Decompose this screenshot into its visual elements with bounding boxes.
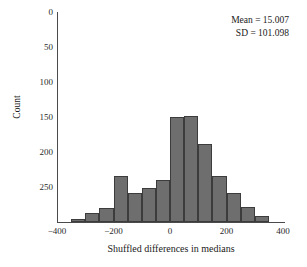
y-axis-tick-label: 0 xyxy=(49,8,54,17)
x-axis-title: Shuffled differences in medians xyxy=(57,243,285,254)
histogram-bar xyxy=(212,176,226,222)
histogram-bar xyxy=(114,176,128,222)
histogram-bar xyxy=(142,188,156,222)
sd-annotation-line: SD = 101.098 xyxy=(231,27,289,40)
mean-annotation-line: Mean = 15.007 xyxy=(231,14,289,27)
histogram-bar xyxy=(156,180,170,222)
histogram-bar xyxy=(227,193,241,222)
histogram-figure: 050100150200250 Count Shuffled differenc… xyxy=(0,0,307,267)
y-axis-tick-label: 100 xyxy=(40,78,54,87)
x-axis-tick-label: 400 xyxy=(276,227,290,236)
histogram-bar xyxy=(198,144,212,222)
x-axis-tick-label: −200 xyxy=(104,227,123,236)
x-axis-line xyxy=(57,222,285,223)
y-axis-tick-label: 150 xyxy=(40,113,54,122)
histogram-bar xyxy=(241,207,255,222)
histogram-bar xyxy=(85,213,99,222)
histogram-bar xyxy=(128,193,142,222)
histogram-bar xyxy=(170,117,184,222)
y-axis-tick-label: 50 xyxy=(44,43,53,52)
histogram-bar xyxy=(99,208,113,222)
x-axis-tick-label: −400 xyxy=(48,227,67,236)
histogram-bar xyxy=(71,219,85,223)
histogram-bar xyxy=(255,216,269,222)
histogram-bar xyxy=(184,116,198,222)
y-axis-tick-label: 200 xyxy=(40,148,54,157)
stats-annotation: Mean = 15.007 SD = 101.098 xyxy=(231,14,289,40)
y-axis-title: Count xyxy=(12,77,22,137)
y-axis-tick-label: 250 xyxy=(40,183,54,192)
plot-area xyxy=(57,12,283,222)
y-axis-tick-labels: 050100150200250 xyxy=(0,0,53,267)
x-axis-tick-label: 0 xyxy=(168,227,173,236)
x-axis-tick-label: 200 xyxy=(220,227,234,236)
